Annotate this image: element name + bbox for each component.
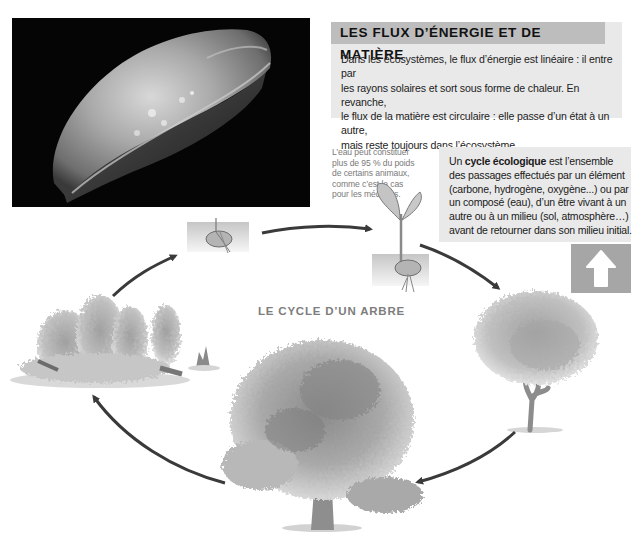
arrow-seedling-to-young-tree	[420, 245, 498, 288]
arrow-mature-tree-to-decay	[94, 397, 225, 483]
seedling-illustration	[372, 183, 429, 292]
seed-in-soil-illustration	[187, 218, 249, 253]
mature-tree-illustration	[222, 340, 423, 532]
decaying-forest-illustration	[10, 295, 220, 388]
young-tree-illustration	[474, 291, 598, 433]
tree-cycle-diagram	[0, 0, 638, 544]
arrow-young-tree-to-mature-tree	[418, 432, 515, 482]
arrow-seed-to-seedling	[262, 226, 370, 233]
arrow-decay-to-seed	[113, 256, 175, 296]
